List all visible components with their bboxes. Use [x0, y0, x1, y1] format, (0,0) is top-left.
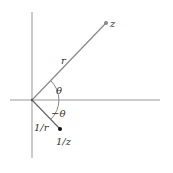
z-point [104, 21, 108, 25]
neg-theta-label: −θ [51, 108, 65, 119]
z-label: z [109, 18, 116, 29]
inv-z-point [58, 127, 62, 131]
segment-to-z [32, 23, 106, 100]
inv-z-label: 1/z [56, 136, 72, 147]
inv-r-label: 1/r [34, 122, 50, 133]
complex-plane-diagram: z r θ −θ 1/r 1/z [0, 0, 173, 173]
origin-point [31, 99, 33, 101]
theta-label: θ [56, 85, 62, 96]
